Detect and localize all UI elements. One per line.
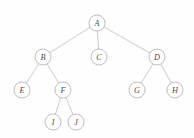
node-label-a: A <box>93 19 100 28</box>
tree-edge-f-i <box>55 98 60 115</box>
node-label-g: G <box>134 86 140 95</box>
tree-edge-a-c <box>97 31 98 49</box>
tree-edge-b-f <box>47 64 59 83</box>
tree-edge-d-g <box>141 64 153 83</box>
tree-diagram-canvas: ABCDEFGHIJ <box>0 0 194 138</box>
tree-node-h[interactable]: H <box>167 82 183 98</box>
tree-edge-a-d <box>104 27 150 53</box>
tree-node-b[interactable]: B <box>35 49 51 65</box>
node-layer: ABCDEFGHIJ <box>14 15 183 130</box>
tree-edge-f-j <box>66 97 73 114</box>
tree-node-j[interactable]: J <box>68 114 84 130</box>
node-label-j: J <box>74 118 78 127</box>
node-label-d: D <box>153 53 160 62</box>
tree-node-g[interactable]: G <box>129 82 145 98</box>
tree-diagram: ABCDEFGHIJ <box>0 0 194 138</box>
node-label-c: C <box>96 53 102 62</box>
tree-edge-a-b <box>50 27 90 52</box>
edge-layer <box>26 27 171 115</box>
tree-node-a[interactable]: A <box>89 15 105 31</box>
node-label-h: H <box>171 86 179 95</box>
tree-node-f[interactable]: F <box>55 82 71 98</box>
node-label-f: F <box>59 86 66 95</box>
node-label-e: E <box>18 86 24 95</box>
tree-edge-d-h <box>161 64 171 83</box>
tree-edge-b-e <box>26 64 38 84</box>
node-label-b: B <box>40 53 45 62</box>
tree-node-d[interactable]: D <box>149 49 165 65</box>
tree-node-i[interactable]: I <box>45 114 61 130</box>
tree-node-e[interactable]: E <box>14 82 30 98</box>
tree-node-c[interactable]: C <box>91 49 107 65</box>
